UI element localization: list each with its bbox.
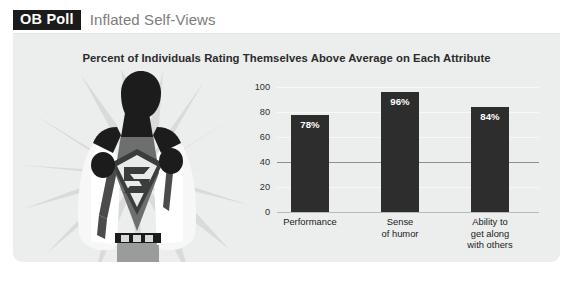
bar-sense-of-humor: 96% bbox=[381, 92, 419, 212]
header: OB Poll Inflated Self-Views bbox=[13, 9, 216, 30]
panel-divider bbox=[13, 33, 560, 34]
y-axis: 100 80 60 40 20 0 bbox=[241, 78, 275, 221]
x-label-sense-of-humor-line-2: of humor bbox=[357, 228, 443, 240]
superhero-illustration bbox=[21, 69, 253, 262]
y-tick-60: 60 bbox=[260, 132, 270, 142]
x-label-ability-to-get-along: Ability to get along with others bbox=[447, 216, 533, 251]
poll-panel: Percent of Individuals Rating Themselves… bbox=[13, 33, 560, 262]
axis-baseline bbox=[277, 212, 539, 213]
y-tick-20: 20 bbox=[260, 182, 270, 192]
bar-ability-to-get-along: 84% bbox=[471, 107, 509, 212]
bar-chart: 100 80 60 40 20 0 78% 96% bbox=[241, 78, 546, 262]
x-label-performance-line-1: Performance bbox=[267, 216, 353, 228]
bar-value-ability-to-get-along: 84% bbox=[471, 111, 509, 122]
y-tick-40: 40 bbox=[260, 157, 270, 167]
ob-poll-badge: OB Poll bbox=[13, 10, 81, 30]
x-label-ability-line-3: with others bbox=[447, 239, 533, 251]
gridline-100 bbox=[277, 87, 539, 88]
bar-value-performance: 78% bbox=[291, 119, 329, 130]
y-tick-100: 100 bbox=[255, 82, 270, 92]
x-label-ability-line-1: Ability to bbox=[447, 216, 533, 228]
x-label-sense-of-humor: Sense of humor bbox=[357, 216, 443, 239]
x-label-sense-of-humor-line-1: Sense bbox=[357, 216, 443, 228]
x-label-performance: Performance bbox=[267, 216, 353, 228]
y-tick-80: 80 bbox=[260, 107, 270, 117]
chart-title: Percent of Individuals Rating Themselves… bbox=[13, 52, 560, 64]
header-title: Inflated Self-Views bbox=[90, 11, 216, 28]
x-label-ability-line-2: get along bbox=[447, 228, 533, 240]
bar-value-sense-of-humor: 96% bbox=[381, 96, 419, 107]
poll-graphic: OB Poll Inflated Self-Views Percent of I… bbox=[0, 0, 574, 282]
bar-performance: 78% bbox=[291, 115, 329, 213]
plot-area: 78% 96% 84% bbox=[277, 87, 539, 212]
